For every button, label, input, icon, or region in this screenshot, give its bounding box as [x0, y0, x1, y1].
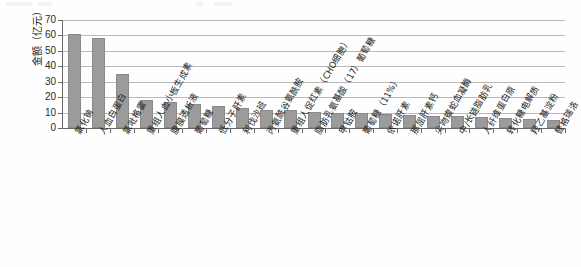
x-axis-tick	[110, 129, 111, 133]
bar[interactable]	[68, 34, 81, 128]
x-axis-tick	[541, 129, 542, 133]
x-axis-tick	[373, 129, 374, 133]
y-axis-tick	[58, 20, 62, 21]
bar-chart-figure: 010203040506070 金额（亿元） 氯化钠人血白蛋白氯吡格雷重组人血小…	[0, 0, 581, 267]
x-axis-tick	[445, 129, 446, 133]
y-axis-tick-label: 10	[36, 108, 56, 118]
y-axis-tick	[58, 35, 62, 36]
x-axis-tick	[278, 129, 279, 133]
y-axis-tick	[58, 113, 62, 114]
y-axis-tick	[58, 66, 62, 67]
x-axis-tick	[493, 129, 494, 133]
x-axis-tick	[182, 129, 183, 133]
x-axis-tick	[349, 129, 350, 133]
x-axis-tick	[230, 129, 231, 133]
y-axis-tick	[58, 128, 62, 129]
x-axis-tick	[469, 129, 470, 133]
y-axis-tick	[58, 97, 62, 98]
x-axis-tick	[517, 129, 518, 133]
scan-artifact	[196, 2, 203, 6]
x-axis-tick	[86, 129, 87, 133]
x-axis-tick	[421, 129, 422, 133]
x-axis-tick	[565, 129, 566, 133]
y-axis-tick	[58, 82, 62, 83]
x-axis-tick	[206, 129, 207, 133]
y-axis-tick-label: 20	[36, 92, 56, 102]
y-axis-tick	[58, 51, 62, 52]
x-axis-tick	[302, 129, 303, 133]
scan-artifact	[214, 2, 232, 6]
x-axis-tick	[325, 129, 326, 133]
x-axis-tick	[254, 129, 255, 133]
y-axis-title: 金额（亿元）	[29, 0, 44, 84]
x-axis-tick	[397, 129, 398, 133]
x-axis-tick-labels: 氯化钠人血白蛋白氯吡格雷重组人血小板生成素腹膜透析液葡萄糖低分子肝素利伐沙班丙氨…	[62, 131, 581, 261]
x-axis-tick	[158, 129, 159, 133]
x-axis-tick	[134, 129, 135, 133]
y-axis-tick-label: 0	[36, 123, 56, 133]
